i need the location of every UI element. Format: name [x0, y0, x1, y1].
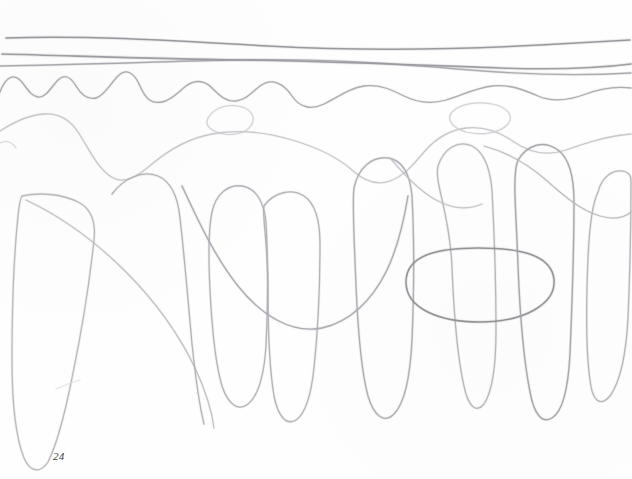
stroke-big-swoop-midleft [182, 186, 408, 329]
stroke-halo-hanging-loop-2-u [209, 186, 268, 407]
stroke-halo-hanging-loop-4-tall [353, 158, 413, 419]
stroke-hanging-loop-5 [437, 144, 496, 408]
stroke-halo-wave-line-high-frequency [0, 72, 631, 107]
stroke-halo-arc-link-right [484, 146, 631, 218]
stroke-halo-drape-left-diagonal [26, 200, 214, 428]
stroke-halo-hanging-loop-5 [437, 144, 496, 408]
pencil-drawing-canvas [0, 0, 632, 479]
sketchbook-page: 24 [0, 0, 632, 479]
stroke-hanging-loop-1 [112, 174, 204, 424]
page-number: 24 [53, 451, 65, 462]
stroke-hanging-loop-6 [515, 145, 574, 420]
stroke-wave-line-high-frequency [0, 72, 631, 107]
stroke-hanging-loop-4-tall [353, 158, 413, 419]
stroke-halo-hanging-loop-6 [515, 145, 574, 420]
stroke-hanging-loop-3 [264, 192, 320, 422]
stroke-hanging-loop-7-right-edge [587, 171, 631, 402]
stroke-drape-left-diagonal [26, 200, 214, 428]
stroke-halo-hanging-loop-1 [112, 174, 204, 424]
stroke-arc-link-right [484, 146, 631, 218]
stroke-faint-smudge-lowleft [56, 380, 80, 389]
stroke-halo-big-swoop-midleft [182, 186, 408, 329]
pencil-stroke-group [0, 37, 631, 470]
